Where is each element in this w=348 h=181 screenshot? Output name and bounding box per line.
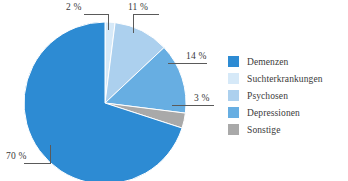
legend-item-depressionen[interactable]: Depressionen	[228, 105, 323, 120]
slice-label-seventy: 70 %	[6, 151, 27, 162]
legend-item-psychosen[interactable]: Psychosen	[228, 88, 323, 103]
legend-item-suchterkrankungen[interactable]: Suchterkrankungen	[228, 71, 323, 86]
slice-label-three: 3 %	[194, 93, 210, 104]
legend-label-psychosen: Psychosen	[247, 91, 288, 101]
legend-swatch-suchterkrankungen	[228, 73, 239, 84]
legend-item-demenzen[interactable]: Demenzen	[228, 54, 323, 69]
pie-chart-figure: 2 % 11 % 14 % 3 % 70 % Demenzen Suchterk…	[0, 0, 348, 181]
legend-swatch-sonstige	[228, 124, 239, 135]
legend-swatch-psychosen	[228, 90, 239, 101]
pie-slices	[24, 22, 186, 181]
legend-label-demenzen: Demenzen	[247, 57, 288, 67]
slice-label-fourteen: 14 %	[186, 51, 207, 62]
legend-label-suchterkrankungen: Suchterkrankungen	[247, 74, 323, 84]
legend-item-sonstige[interactable]: Sonstige	[228, 122, 323, 137]
legend-swatch-demenzen	[228, 56, 239, 67]
slice-label-two: 2 %	[66, 2, 82, 13]
slice-label-eleven: 11 %	[128, 2, 148, 13]
legend-label-sonstige: Sonstige	[247, 125, 281, 135]
chart-legend: Demenzen Suchterkrankungen Psychosen Dep…	[228, 54, 323, 137]
legend-label-depressionen: Depressionen	[247, 108, 300, 118]
legend-swatch-depressionen	[228, 107, 239, 118]
